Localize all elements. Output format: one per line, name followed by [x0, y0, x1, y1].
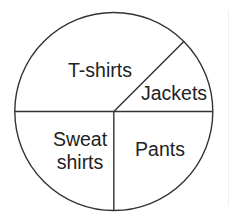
slice-label-pants: Pants [135, 138, 185, 160]
slice-label-t-shirts: T-shirts [68, 59, 132, 81]
slice-label-jackets: Jackets [141, 82, 207, 104]
pie-slices [15, 13, 213, 211]
slice-label-sweat-shirts: Sweatshirts [53, 128, 108, 173]
pie-chart: T-shirtsJacketsPantsSweatshirts [0, 0, 232, 216]
